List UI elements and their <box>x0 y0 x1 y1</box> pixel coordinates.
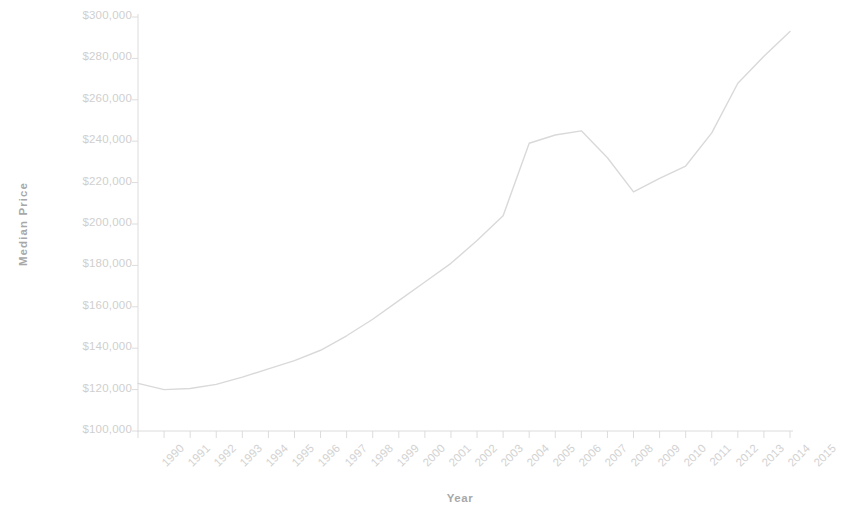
y-axis-ticks <box>132 17 138 431</box>
x-axis-title: Year <box>0 492 841 504</box>
x-axis-ticks <box>138 431 790 438</box>
x-tick-label: 2015 <box>811 442 838 469</box>
median-price-line <box>138 31 790 389</box>
